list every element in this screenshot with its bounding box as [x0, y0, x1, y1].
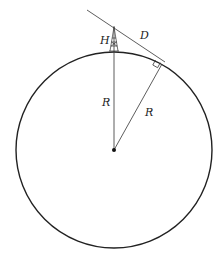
center-point	[112, 148, 116, 152]
horizon-diagram: H D R R	[0, 0, 223, 260]
radius-to-tangent-point	[114, 64, 162, 150]
tangent-line-of-sight	[87, 10, 165, 62]
label-radius-vertical: R	[101, 96, 110, 109]
label-height: H	[99, 34, 110, 47]
label-distance: D	[139, 29, 149, 42]
label-radius-tangent: R	[144, 106, 153, 119]
